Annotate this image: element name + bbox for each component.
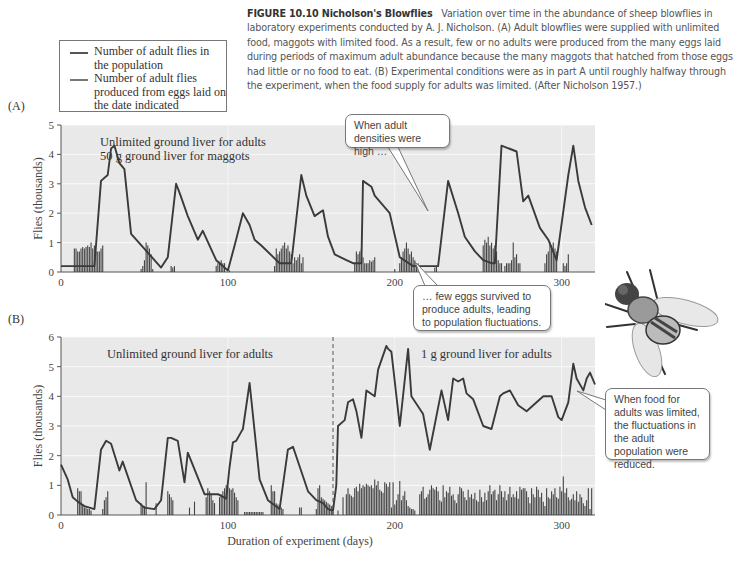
y-tick-label: 6 [49, 331, 55, 343]
y-tick-label: 0 [49, 266, 55, 278]
y-axis-label: Flies (thousands) [31, 157, 45, 239]
callout-few-eggs: … few eggs survived to produce adults, l… [413, 285, 551, 331]
condition-annotation: Unlimited ground liver for adults [107, 347, 273, 361]
y-tick-label: 3 [49, 178, 55, 190]
y-tick-label: 2 [49, 450, 55, 462]
y-tick-label: 1 [49, 237, 55, 249]
x-tick-label: 200 [387, 276, 404, 288]
condition-annotation: Unlimited ground liver for adults [100, 135, 266, 149]
x-tick-label: 100 [220, 276, 237, 288]
chart-panel-a: 0123450100200300Flies (thousands)Unlimit… [31, 119, 595, 288]
x-tick-label: 0 [58, 276, 64, 288]
callout-food-limited: When food for adults was limited, the fl… [605, 388, 710, 460]
x-tick-label: 200 [387, 519, 404, 531]
condition-annotation: 1 g ground liver for adults [421, 347, 552, 361]
x-tick-label: 100 [220, 519, 237, 531]
chart-panel-b: 01234560100200300Flies (thousands)Durati… [31, 331, 595, 548]
y-tick-label: 1 [49, 479, 55, 491]
x-tick-label: 300 [553, 519, 570, 531]
y-tick-label: 2 [49, 207, 55, 219]
x-axis-label: Duration of experiment (days) [227, 534, 373, 548]
x-tick-label: 0 [58, 519, 64, 531]
y-tick-label: 5 [49, 361, 55, 373]
y-tick-label: 3 [49, 420, 55, 432]
y-tick-label: 4 [49, 390, 55, 402]
y-tick-label: 0 [49, 509, 55, 521]
x-tick-label: 300 [553, 276, 570, 288]
blowfly-illustration-icon [605, 262, 740, 377]
callout-high-density: When adult densities were high … [345, 114, 450, 148]
condition-annotation: 50 g ground liver for maggots [100, 149, 250, 163]
y-tick-label: 5 [49, 119, 55, 131]
y-axis-label: Flies (thousands) [31, 385, 45, 467]
y-tick-label: 4 [49, 148, 55, 160]
